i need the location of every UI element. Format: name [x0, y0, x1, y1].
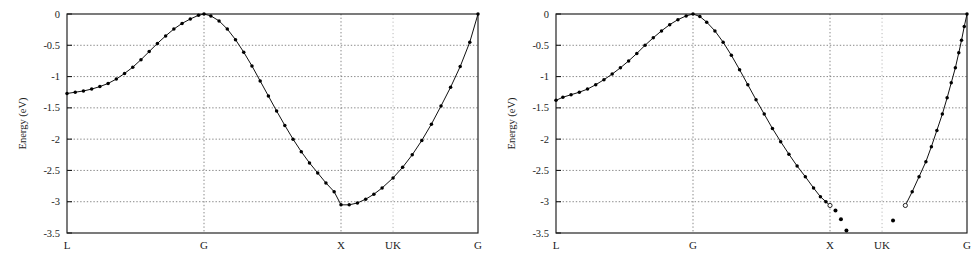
- data-point: [910, 190, 914, 194]
- axis-frame: [556, 14, 967, 233]
- band-curve-band-segment-G-ascend: [905, 14, 967, 205]
- data-point: [209, 14, 213, 18]
- data-point: [812, 186, 816, 190]
- data-point: [283, 124, 287, 128]
- data-point: [364, 197, 368, 201]
- gridlines: [67, 14, 478, 233]
- y-tick-label: -3.5: [43, 228, 60, 239]
- data-point: [705, 20, 709, 24]
- data-point: [380, 186, 384, 190]
- data-point: [619, 66, 623, 70]
- data-point: [945, 96, 949, 100]
- data-point: [746, 83, 750, 87]
- data-point: [930, 145, 934, 149]
- data-point: [684, 14, 688, 18]
- y-tick-labels: 0-0.5-1-1.5-2-2.5-3-3.5: [43, 9, 60, 239]
- data-point: [202, 12, 206, 16]
- data-point: [139, 58, 143, 62]
- y-tick-label: -3.5: [532, 228, 549, 239]
- data-point: [90, 87, 94, 91]
- data-point: [965, 12, 969, 16]
- data-point: [476, 12, 480, 16]
- data-point: [131, 65, 135, 69]
- y-tick-label: -2: [540, 134, 549, 145]
- data-point: [561, 95, 565, 99]
- data-point: [258, 79, 262, 83]
- y-tick-label: -1: [51, 71, 60, 82]
- y-tick-label: -2: [51, 134, 60, 145]
- data-point: [250, 64, 254, 68]
- data-point: [308, 161, 312, 165]
- y-tick-label: -3: [540, 196, 549, 207]
- data-point: [115, 77, 119, 81]
- data-point: [106, 82, 110, 86]
- data-point: [226, 27, 230, 31]
- data-point: [339, 203, 343, 207]
- y-axis-title: Energy (eV): [506, 97, 518, 149]
- y-tick-labels: 0-0.5-1-1.5-2-2.5-3-3.5: [532, 9, 549, 239]
- axis-frame: [67, 14, 478, 233]
- x-tick-label: G: [689, 239, 697, 251]
- data-point: [824, 200, 828, 204]
- data-point: [468, 40, 472, 44]
- data-point: [73, 90, 77, 94]
- data-point: [275, 109, 279, 113]
- data-point: [795, 164, 799, 168]
- data-point: [721, 40, 725, 44]
- data-point: [372, 192, 376, 196]
- open-data-point: [828, 203, 832, 207]
- data-point: [316, 171, 320, 175]
- band-curve-band: [67, 14, 478, 205]
- data-point: [960, 39, 964, 43]
- plot-frame: [556, 14, 967, 233]
- data-point: [635, 52, 639, 56]
- x-tick-labels: LGXUKG: [553, 239, 971, 251]
- data-point: [197, 14, 201, 18]
- data-point: [949, 81, 953, 85]
- data-point: [627, 59, 631, 63]
- plot-frame: [67, 14, 478, 233]
- x-tick-label: L: [64, 239, 71, 251]
- x-tick-label: UK: [874, 239, 890, 251]
- data-point: [730, 54, 734, 58]
- y-tick-label: -0.5: [43, 40, 60, 51]
- data-point: [610, 72, 614, 76]
- scatter-point: [833, 208, 837, 212]
- data-point: [819, 195, 823, 199]
- data-point: [935, 129, 939, 133]
- axis-ticks: [67, 14, 72, 233]
- y-tick-label: 0: [544, 9, 549, 20]
- y-tick-label: -1.5: [43, 102, 60, 113]
- data-point: [738, 68, 742, 72]
- data-point: [554, 99, 558, 103]
- data-point: [65, 92, 69, 96]
- scatter-point: [839, 217, 843, 221]
- x-tick-label: X: [337, 239, 345, 251]
- data-point: [954, 66, 958, 70]
- data-point: [449, 85, 453, 89]
- data-point: [917, 175, 921, 179]
- axis-ticks: [556, 14, 561, 233]
- data-point: [356, 201, 360, 205]
- data-point: [586, 87, 590, 91]
- data-point: [941, 112, 945, 116]
- x-tick-label: UK: [385, 239, 401, 251]
- data-point: [787, 152, 791, 156]
- y-tick-label: -2.5: [43, 165, 60, 176]
- data-point: [189, 17, 193, 21]
- data-point: [754, 98, 758, 102]
- data-point: [300, 150, 304, 154]
- x-tick-label: G: [963, 239, 971, 251]
- x-tick-label: G: [474, 239, 482, 251]
- data-point: [420, 139, 424, 143]
- data-point: [217, 19, 221, 23]
- data-point: [267, 94, 271, 98]
- scatter-point: [844, 229, 848, 233]
- data-point: [957, 51, 961, 55]
- band-structure-figure: 0-0.5-1-1.5-2-2.5-3-3.5LGXUKGEnergy (eV)…: [0, 0, 978, 267]
- y-tick-label: -3: [51, 196, 60, 207]
- data-point: [924, 160, 928, 164]
- data-point: [643, 44, 647, 48]
- data-point: [242, 50, 246, 54]
- data-point: [324, 181, 328, 185]
